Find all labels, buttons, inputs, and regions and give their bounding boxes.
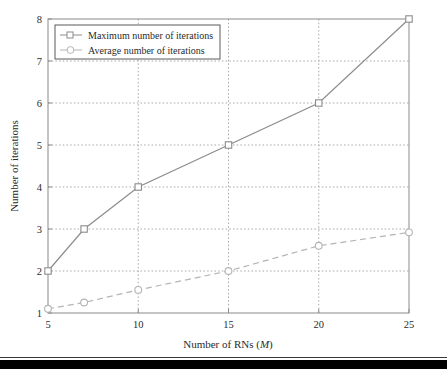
data-point-marker	[135, 287, 142, 294]
data-point-marker	[225, 142, 231, 148]
tick-label-y-6: 6	[37, 98, 42, 109]
tick-label-y-1: 1	[37, 308, 42, 319]
legend-label-maximum: Maximum number of iterations	[88, 30, 213, 41]
tick-label-y-5: 5	[37, 140, 42, 151]
data-point-marker	[45, 268, 51, 274]
line-chart: 12345678 510152025 Number of iterations …	[0, 0, 447, 369]
data-point-marker	[225, 268, 232, 275]
data-point-marker	[81, 226, 87, 232]
square-marker-icon	[67, 32, 73, 38]
data-point-marker	[135, 184, 141, 190]
x-axis-title: Number of RNs (M)	[183, 338, 273, 351]
data-point-marker	[81, 299, 88, 306]
data-point-marker	[316, 100, 322, 106]
tick-label-y-8: 8	[37, 14, 42, 25]
tick-label-x-20: 20	[314, 319, 325, 330]
x-axis-tick-labels: 510152025	[45, 319, 414, 330]
tick-label-y-2: 2	[37, 266, 42, 277]
bottom-black-band	[0, 360, 447, 369]
bottom-rule	[0, 357, 447, 358]
data-point-marker	[45, 305, 52, 312]
data-point-marker	[315, 242, 322, 249]
figure-container: 12345678 510152025 Number of iterations …	[0, 0, 447, 369]
tick-label-x-15: 15	[223, 319, 234, 330]
tick-label-y-3: 3	[37, 224, 42, 235]
y-axis-tick-labels: 12345678	[37, 14, 43, 319]
chart-legend: Maximum number of iterations Average num…	[55, 25, 220, 59]
tick-label-y-7: 7	[37, 56, 42, 67]
tick-label-x-10: 10	[133, 319, 144, 330]
y-axis-title: Number of iterations	[8, 120, 20, 212]
data-point-marker	[406, 229, 413, 236]
tick-label-x-25: 25	[404, 319, 415, 330]
tick-label-y-4: 4	[37, 182, 43, 193]
x-axis-title-suffix: )	[269, 338, 273, 351]
data-point-marker	[406, 16, 412, 22]
circle-marker-icon	[67, 47, 74, 54]
x-axis-title-prefix: Number of RNs (	[183, 338, 260, 351]
legend-label-average: Average number of iterations	[88, 45, 205, 56]
tick-label-x-5: 5	[45, 319, 50, 330]
